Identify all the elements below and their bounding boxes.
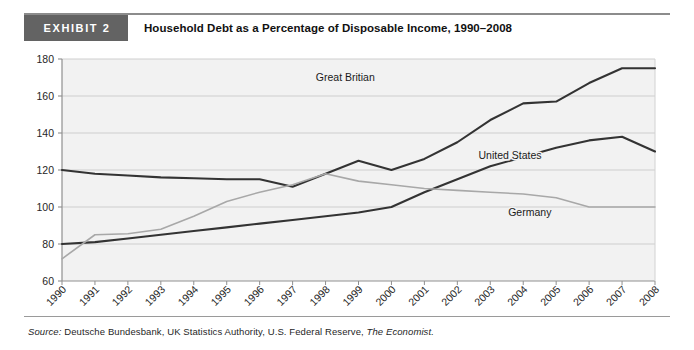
source-text: Deutsche Bundesbank, UK Statistics Autho… — [64, 326, 364, 337]
x-axis-tick-label: 2007 — [603, 283, 628, 306]
x-axis-tick-label: 2008 — [636, 283, 661, 306]
x-axis-tick-label: 2006 — [571, 283, 596, 306]
x-axis-tick-label: 2002 — [439, 283, 464, 306]
bottom-divider — [24, 316, 670, 317]
x-axis-tick-label: 1996 — [241, 283, 266, 306]
source-label: Source: — [28, 326, 61, 337]
x-axis-tick-label: 1995 — [208, 283, 233, 306]
x-axis-tick-label: 1991 — [76, 283, 101, 306]
page-title: Household Debt as a Percentage of Dispos… — [128, 15, 670, 41]
x-axis-tick-label: 2003 — [472, 283, 497, 306]
chart-container: 6080100120140160180 19901991199219931994… — [0, 44, 694, 306]
series-label: United States — [479, 149, 542, 161]
x-axis-tick-labels: 1990199119921993199419951996199719981999… — [43, 281, 661, 306]
y-axis-tick-label: 120 — [36, 164, 54, 176]
series-label: Great Britian — [316, 71, 375, 83]
line-chart: 6080100120140160180 19901991199219931994… — [0, 44, 694, 306]
y-axis-tick-labels: 6080100120140160180 — [36, 53, 54, 287]
exhibit-header: EXHIBIT 2 Household Debt as a Percentage… — [24, 13, 670, 41]
x-axis-tick-label: 1998 — [307, 283, 332, 306]
x-axis-tick-label: 1994 — [175, 283, 200, 306]
x-axis-tick-label: 1997 — [274, 283, 299, 306]
x-axis-tick-label: 1992 — [109, 283, 134, 306]
x-axis-tick-label: 2001 — [406, 283, 431, 306]
x-axis-tick-label: 2005 — [538, 283, 563, 306]
source-publication: The Economist. — [367, 326, 434, 337]
series-label: Germany — [508, 206, 552, 218]
x-axis-tick-label: 2000 — [373, 283, 398, 306]
y-axis-tick-label: 180 — [36, 53, 54, 65]
source-note: Source: Deutsche Bundesbank, UK Statisti… — [28, 326, 434, 337]
exhibit-tag: EXHIBIT 2 — [24, 15, 128, 41]
x-axis-tick-label: 1993 — [142, 283, 167, 306]
y-axis-tick-label: 60 — [42, 275, 54, 287]
y-axis-tick-label: 140 — [36, 127, 54, 139]
y-axis-tick-label: 80 — [42, 238, 54, 250]
x-axis-tick-label: 1999 — [340, 283, 365, 306]
x-axis-tick-label: 2004 — [505, 283, 530, 306]
y-axis-tick-label: 160 — [36, 90, 54, 102]
y-axis-tick-label: 100 — [36, 201, 54, 213]
